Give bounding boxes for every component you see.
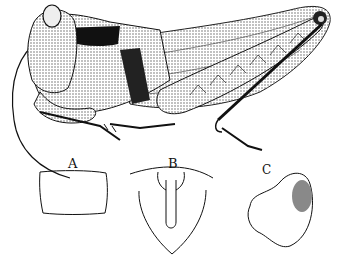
figure-label-c: C bbox=[262, 164, 271, 176]
detail-b-shield bbox=[139, 190, 206, 254]
figure-label-b: B bbox=[168, 157, 178, 170]
illustration-canvas bbox=[0, 0, 337, 268]
mid-leg bbox=[110, 124, 175, 128]
compound-eye bbox=[43, 5, 61, 27]
grasshopper-illustration bbox=[0, 0, 337, 268]
detail-a-outline bbox=[40, 171, 108, 215]
detail-b-stem bbox=[166, 180, 176, 228]
figure-label-a: A bbox=[68, 157, 77, 170]
detail-c-eye bbox=[292, 180, 312, 212]
hind-tarsus bbox=[222, 128, 262, 150]
